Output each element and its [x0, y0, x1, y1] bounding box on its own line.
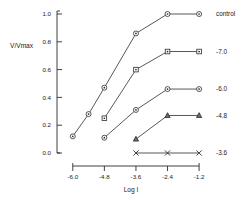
- series-label-2: -7.0: [216, 48, 227, 55]
- x-tick-label: -1.2: [194, 173, 205, 180]
- x-tick-label: -3.6: [131, 173, 142, 180]
- chart-canvas: 0.00.20.40.60.81.0 -6.0-4.8-3.6-2.4-1.2 …: [0, 0, 244, 201]
- chart-figure: 0.00.20.40.60.81.0 -6.0-4.8-3.6-2.4-1.2 …: [0, 0, 244, 201]
- data-point-dot: [135, 109, 137, 111]
- y-tick-label: 1.0: [42, 10, 51, 17]
- data-point-dot: [104, 137, 106, 139]
- data-point-dot: [104, 117, 106, 119]
- data-point-dot: [72, 135, 74, 137]
- x-axis-title: Log I: [124, 186, 139, 194]
- series-label-5: -3.6: [216, 149, 227, 156]
- data-point-dot: [88, 113, 90, 115]
- x-tick-label: -4.8: [99, 173, 110, 180]
- data-point-dot: [167, 88, 169, 90]
- y-tick-label: 0.8: [42, 38, 51, 45]
- data-point-dot: [198, 51, 200, 53]
- data-point-dot: [198, 88, 200, 90]
- data-point-dot: [167, 51, 169, 53]
- series-label-1: control: [216, 10, 235, 17]
- y-tick-label: 0.2: [42, 121, 51, 128]
- y-axis-title: V/Vmax: [10, 42, 34, 49]
- y-tick-label: 0.0: [42, 149, 51, 156]
- data-point-dot: [104, 87, 106, 89]
- y-tick-label: 0.4: [42, 94, 51, 101]
- chart-background: [0, 0, 244, 201]
- data-point-dot: [167, 13, 169, 15]
- data-point-dot: [135, 69, 137, 71]
- y-tick-label: 0.6: [42, 66, 51, 73]
- data-point-dot: [135, 33, 137, 35]
- series-label-3: -6.0: [216, 85, 227, 92]
- series-label-4: -4.8: [216, 112, 227, 119]
- x-tick-label: -2.4: [162, 173, 173, 180]
- x-tick-label: -6.0: [67, 173, 78, 180]
- data-point-dot: [198, 13, 200, 15]
